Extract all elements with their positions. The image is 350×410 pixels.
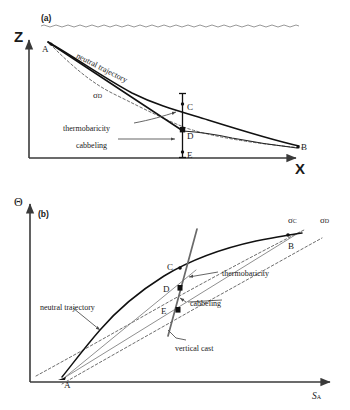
panel-a-point-a-label: A [42, 38, 49, 56]
panel-b-point-c-dot [178, 266, 182, 270]
panel-b-chord-ab [64, 232, 300, 378]
panel-b-point-d-dot [178, 285, 183, 291]
panel-b-sigma-c-label: σC [288, 209, 297, 227]
panel-a-point-a-dot [49, 42, 52, 45]
panel-a-tag: (a) [41, 7, 51, 25]
panel-a-db-branch [183, 131, 297, 148]
panel-a-point-e-label: E [187, 144, 193, 162]
panel-a-point-b-label: B [301, 136, 307, 154]
panel-b-thermobaricity-label: thermobaricity [222, 262, 269, 280]
panel-a-point-c-label: C [187, 96, 193, 114]
panel-b-point-a-label: A [64, 374, 71, 392]
panel-a-point-b-dot [296, 145, 299, 148]
panel-b-vertical-cast-label: vertical cast [175, 337, 213, 355]
panel-b-sigma-d-curve [62, 238, 322, 384]
panel-a-sigma-d-label: σD [93, 84, 102, 102]
panel-b [30, 204, 330, 384]
panel-b-point-b-label: B [288, 235, 294, 253]
panel-a-thermobaricity-label: thermobaricity [63, 117, 110, 135]
figure-root: (a) Z X A B C D E σD neutral trajectory … [0, 0, 350, 410]
panel-b-cabbeling-leader [180, 298, 186, 302]
panel-a-point-e-dot [181, 150, 184, 153]
panel-b-neutral-trajectory-label: neutral trajectory [40, 296, 95, 314]
panel-b-x-axis-label: SA [312, 385, 321, 403]
panel-a-x-axis-label: X [295, 160, 305, 178]
panel-b-y-axis-label: Θ [14, 192, 23, 210]
panel-b-sigma-d-label: σD [320, 209, 329, 227]
panel-a-point-d-label: D [187, 125, 194, 143]
panel-b-point-e-dot [176, 307, 181, 313]
panel-a-point-c-dot [181, 102, 184, 105]
panel-b-tag: (b) [38, 203, 49, 221]
panel-a-point-d-dot [180, 127, 185, 132]
panel-b-point-d-label: D [163, 278, 170, 296]
sea-surface-wavy-icon [41, 25, 299, 27]
panel-a-y-axis-label: Z [14, 28, 23, 46]
panel-b-vertical-cast-line [168, 229, 197, 336]
panel-a [29, 25, 302, 158]
panel-b-point-e-label: E [161, 300, 167, 318]
panel-a-cabbeling-label: cabbeling [76, 134, 107, 152]
panel-b-point-c-label: C [167, 256, 173, 274]
panel-b-cabbeling-label: cabbeling [190, 292, 221, 310]
panel-b-chord-ac [64, 270, 196, 378]
